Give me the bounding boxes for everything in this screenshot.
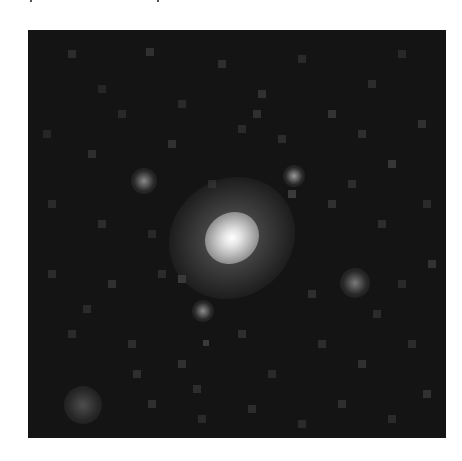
galaxy-image — [28, 30, 446, 438]
noise-pixel — [193, 385, 201, 393]
noise-pixel — [418, 120, 426, 128]
noise-pixel — [408, 340, 416, 348]
noise-pixel — [218, 60, 226, 68]
noise-pixel — [328, 110, 336, 118]
noise-pixel — [238, 125, 246, 133]
upper-left-source — [131, 168, 157, 194]
noise-pixel — [328, 200, 336, 208]
noise-pixel — [148, 400, 156, 408]
noise-pixel — [318, 340, 326, 348]
noise-pixel — [88, 150, 96, 158]
noise-pixel — [298, 55, 306, 63]
noise-pixel — [373, 310, 381, 318]
noise-pixel — [338, 400, 346, 408]
below-galaxy-source — [192, 300, 214, 322]
noise-pixel — [108, 280, 116, 288]
noise-pixel — [48, 270, 56, 278]
artifact-mark-1 — [30, 0, 32, 2]
noise-pixel — [288, 190, 296, 198]
noise-pixel — [423, 390, 431, 398]
noise-pixel — [253, 110, 261, 118]
noise-pixel — [428, 260, 436, 268]
noise-pixel — [43, 130, 51, 138]
noise-pixel — [398, 50, 406, 58]
noise-pixel — [146, 48, 154, 56]
noise-pixel — [238, 330, 246, 338]
noise-pixel — [258, 90, 266, 98]
noise-pixel — [98, 220, 106, 228]
artifact-mark-2 — [157, 0, 159, 2]
noise-pixel — [388, 415, 396, 423]
noise-pixel — [128, 340, 136, 348]
upper-right-source — [283, 165, 305, 187]
noise-pixel — [98, 85, 106, 93]
noise-pixel — [298, 420, 306, 428]
noise-pixel — [388, 160, 396, 168]
noise-pixel — [68, 50, 76, 58]
noise-pixel — [248, 405, 256, 413]
noise-pixel — [48, 200, 56, 208]
noise-pixel — [178, 360, 186, 368]
noise-pixel — [178, 100, 186, 108]
noise-pixel — [308, 290, 316, 298]
noise-pixel — [158, 270, 166, 278]
noise-pixel — [378, 220, 386, 228]
noise-pixel — [358, 360, 366, 368]
noise-pixel — [198, 415, 206, 423]
noise-pixel — [133, 370, 141, 378]
noise-pixel — [268, 370, 276, 378]
right-source — [340, 268, 370, 298]
noise-pixel — [83, 305, 91, 313]
noise-pixel — [203, 340, 209, 346]
noise-pixel — [278, 135, 286, 143]
noise-pixel — [423, 200, 431, 208]
noise-pixel — [358, 130, 366, 138]
noise-pixel — [398, 280, 406, 288]
noise-pixel — [348, 180, 356, 188]
noise-pixel — [168, 140, 176, 148]
noise-pixel — [118, 110, 126, 118]
noise-pixel — [68, 330, 76, 338]
noise-pixel — [368, 80, 376, 88]
noise-pixel — [148, 230, 156, 238]
lower-left-source — [64, 386, 102, 424]
